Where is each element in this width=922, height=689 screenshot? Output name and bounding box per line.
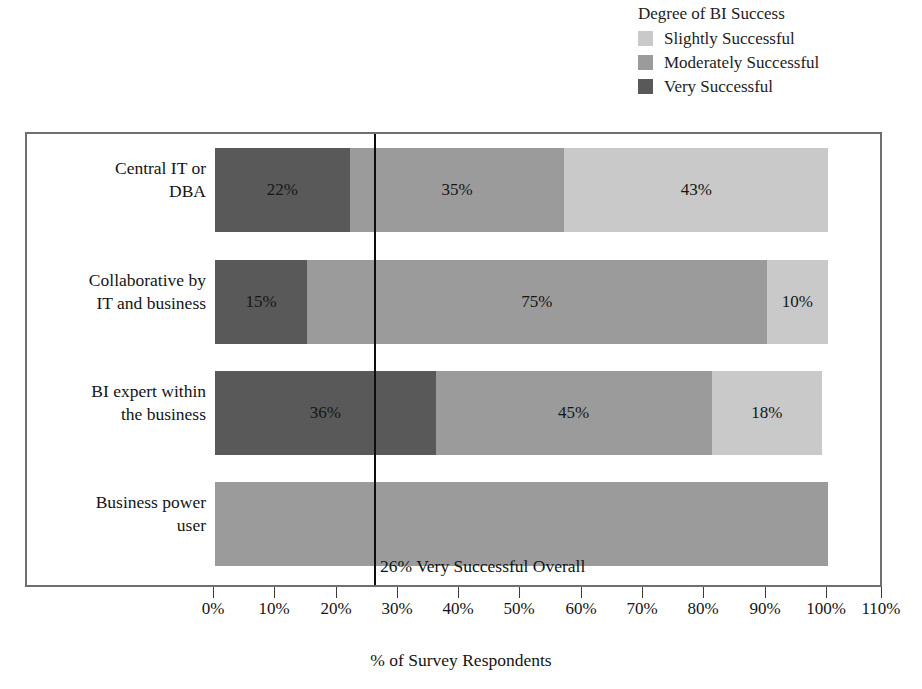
x-axis-tick-label: 90%	[749, 599, 780, 619]
legend-item-slightly-successful: Slightly Successful	[638, 26, 922, 50]
bar-row-business-power-user	[215, 482, 828, 566]
bar-segment-moderately-successful: 35%	[350, 148, 565, 232]
x-axis-tick-label: 30%	[381, 599, 412, 619]
legend-label-very-successful: Very Successful	[664, 76, 773, 97]
reference-line-26-percent	[374, 134, 376, 585]
bar-row-bi-expert-within-the-business: 36% 45% 18%	[215, 371, 822, 455]
category-label-collaborative-by-it-and-business: Collaborative by IT and business	[0, 269, 206, 315]
x-axis-title: % of Survey Respondents	[0, 650, 922, 671]
bar-segment-slightly-successful: 18%	[712, 371, 822, 455]
x-axis-tick	[458, 587, 459, 598]
bar-segment-very-successful: 22%	[215, 148, 350, 232]
x-axis-tick-label: 80%	[687, 599, 718, 619]
x-axis-tick	[274, 587, 275, 598]
x-axis-tick	[642, 587, 643, 598]
x-axis-tick	[581, 587, 582, 598]
bar-row-central-it-or-dba: 22% 35% 43%	[215, 148, 828, 232]
x-axis-tick	[826, 587, 827, 598]
legend-label-moderately-successful: Moderately Successful	[664, 52, 819, 73]
reference-line-label: 26% Very Successful Overall	[380, 556, 585, 577]
x-axis-tick-label: 0%	[202, 599, 225, 619]
bar-segment-very-successful: 36%	[215, 371, 436, 455]
legend-label-slightly-successful: Slightly Successful	[664, 28, 795, 49]
bar-segment-slightly-successful: 10%	[767, 260, 828, 344]
x-axis-tick-label: 20%	[320, 599, 351, 619]
legend: Degree of BI Success Slightly Successful…	[638, 2, 922, 98]
legend-title: Degree of BI Success	[638, 2, 922, 26]
x-axis-tick-label: 40%	[442, 599, 473, 619]
chart-plot-area: Central IT or DBA 22% 35% 43% Collaborat…	[25, 132, 882, 587]
legend-swatch-moderately-successful	[638, 55, 653, 70]
bar-segment-slightly-successful: 43%	[564, 148, 828, 232]
x-axis-tick	[765, 587, 766, 598]
bar-segment-moderately-successful: 45%	[436, 371, 712, 455]
x-axis-tick-label: 60%	[565, 599, 596, 619]
x-axis-tick	[881, 587, 882, 598]
legend-item-very-successful: Very Successful	[638, 74, 922, 98]
category-label-bi-expert-within-the-business: BI expert within the business	[0, 380, 206, 426]
x-axis: 0% 10% 20% 30% 40% 50% 60% 70% 80% 90% 1…	[25, 587, 882, 637]
category-label-business-power-user: Business power user	[0, 491, 206, 537]
bars-layer: Central IT or DBA 22% 35% 43% Collaborat…	[27, 134, 880, 585]
x-axis-tick	[397, 587, 398, 598]
x-axis-tick-label: 70%	[626, 599, 657, 619]
x-axis-tick	[336, 587, 337, 598]
x-axis-tick-label: 50%	[503, 599, 534, 619]
bar-segment-very-successful: 15%	[215, 260, 307, 344]
bar-row-collaborative-by-it-and-business: 15% 75% 10%	[215, 260, 828, 344]
x-axis-tick	[703, 587, 704, 598]
legend-swatch-very-successful	[638, 79, 653, 94]
category-label-central-it-or-dba: Central IT or DBA	[0, 157, 206, 203]
x-axis-tick-label: 100%	[806, 599, 846, 619]
bar-segment-moderately-successful	[215, 482, 828, 566]
x-axis-tick-label: 10%	[258, 599, 289, 619]
x-axis-tick	[213, 587, 214, 598]
x-axis-tick	[519, 587, 520, 598]
legend-item-moderately-successful: Moderately Successful	[638, 50, 922, 74]
x-axis-tick-label: 110%	[861, 599, 900, 619]
legend-swatch-slightly-successful	[638, 31, 653, 46]
